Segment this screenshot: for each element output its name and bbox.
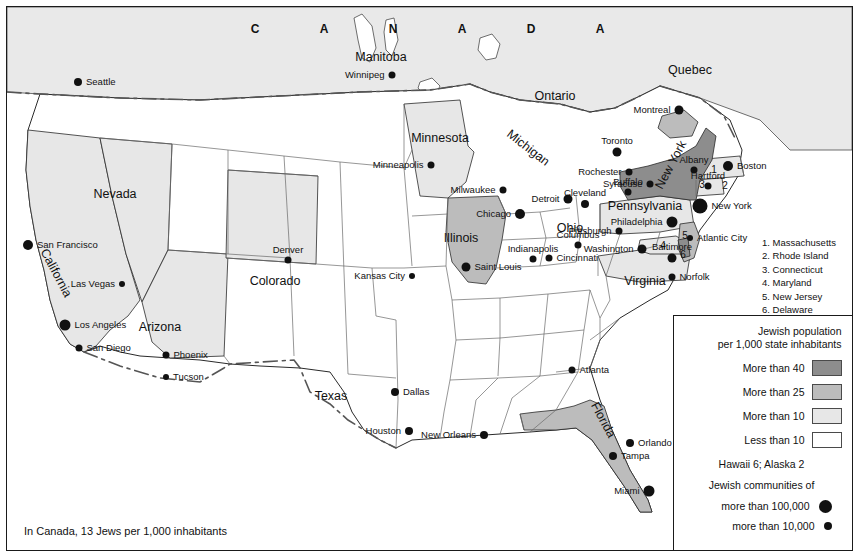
city-dot bbox=[616, 228, 623, 235]
legend-class-label: Less than 10 bbox=[744, 434, 804, 446]
city-dot bbox=[515, 209, 525, 219]
city-dot bbox=[644, 486, 655, 497]
city-dot bbox=[391, 388, 399, 396]
city-dot bbox=[613, 148, 622, 157]
jewish-population-map: CANADA MinnesotaMichiganIllinoisOhioNeva… bbox=[0, 0, 859, 557]
city-dot bbox=[569, 367, 576, 374]
legend-community-label: more than 10,000 bbox=[732, 520, 814, 532]
legend-community-row: more than 100,000 bbox=[682, 500, 842, 513]
map-legend: Jewish population per 1,000 state inhabi… bbox=[673, 315, 853, 551]
legend-title: Jewish population per 1,000 state inhabi… bbox=[682, 325, 842, 351]
city-dot bbox=[546, 255, 553, 262]
state-colorado bbox=[226, 170, 318, 264]
city-dot bbox=[428, 162, 435, 169]
state-florida bbox=[520, 400, 652, 512]
legend-class-label: More than 10 bbox=[743, 410, 805, 422]
city-dot bbox=[119, 281, 125, 287]
legend-community-row: more than 10,000 bbox=[682, 520, 842, 532]
city-dot bbox=[60, 320, 71, 331]
city-dot bbox=[609, 452, 617, 460]
legend-class-label: More than 25 bbox=[743, 386, 805, 398]
city-dot bbox=[285, 257, 292, 264]
legend-color-swatch bbox=[812, 360, 842, 376]
city-dot bbox=[462, 263, 471, 272]
state-list-item: 5. New Jersey bbox=[762, 290, 836, 303]
city-dot bbox=[705, 183, 712, 190]
legend-class-label: More than 40 bbox=[743, 362, 805, 374]
legend-communities-title: Jewish communities of bbox=[682, 479, 842, 491]
city-dot bbox=[667, 217, 678, 228]
city-dot bbox=[389, 72, 396, 79]
city-dot bbox=[691, 167, 698, 174]
state-list-item: 4. Maryland bbox=[762, 276, 836, 289]
legend-class-row: More than 40 bbox=[682, 360, 842, 376]
city-dot bbox=[626, 439, 634, 447]
city-dot bbox=[163, 352, 170, 359]
city-dot bbox=[647, 181, 654, 188]
city-dot bbox=[76, 345, 83, 352]
numbered-state-list: 1. Massachusetts2. Rhode Island3. Connec… bbox=[762, 236, 836, 317]
city-dot bbox=[163, 374, 169, 380]
state-list-item: 1. Massachusetts bbox=[762, 236, 836, 249]
legend-title-line1: Jewish population bbox=[758, 325, 841, 337]
city-dot bbox=[74, 78, 82, 86]
canada-letter: A bbox=[596, 22, 605, 36]
city-dot bbox=[23, 240, 33, 250]
city-dot bbox=[581, 200, 589, 208]
city-dot bbox=[668, 254, 677, 263]
legend-community-dot bbox=[819, 500, 832, 513]
state-virginia bbox=[598, 250, 690, 282]
city-dot bbox=[638, 245, 647, 254]
city-dot bbox=[626, 169, 633, 176]
legend-note: Hawaii 6; Alaska 2 bbox=[682, 458, 842, 470]
legend-title-line2: per 1,000 state inhabitants bbox=[718, 338, 842, 350]
legend-class-row: Less than 10 bbox=[682, 432, 842, 448]
canada-letter: C bbox=[251, 22, 260, 36]
state-list-item: 2. Rhode Island bbox=[762, 249, 836, 262]
city-dot bbox=[409, 273, 415, 279]
canada-letter: N bbox=[389, 22, 398, 36]
city-dot bbox=[687, 235, 693, 241]
city-dot bbox=[564, 195, 573, 204]
legend-class-rows: More than 40More than 25More than 10Less… bbox=[682, 360, 842, 448]
city-dot bbox=[405, 427, 413, 435]
city-dot bbox=[500, 187, 507, 194]
legend-color-swatch bbox=[812, 432, 842, 448]
map-caption: In Canada, 13 Jews per 1,000 inhabitants bbox=[24, 525, 227, 537]
legend-community-rows: more than 100,000more than 10,000 bbox=[682, 500, 842, 532]
legend-color-swatch bbox=[812, 384, 842, 400]
canada-letter: A bbox=[458, 22, 467, 36]
city-dot bbox=[669, 274, 676, 281]
legend-class-row: More than 25 bbox=[682, 384, 842, 400]
city-dot bbox=[693, 199, 708, 214]
legend-community-dot bbox=[824, 522, 832, 530]
city-dot bbox=[530, 256, 537, 263]
legend-class-row: More than 10 bbox=[682, 408, 842, 424]
city-dot bbox=[675, 106, 684, 115]
canada-letter: A bbox=[320, 22, 329, 36]
state-list-item: 3. Connecticut bbox=[762, 263, 836, 276]
legend-color-swatch bbox=[812, 408, 842, 424]
city-dot bbox=[575, 242, 582, 249]
canada-letter: D bbox=[527, 22, 536, 36]
legend-community-label: more than 100,000 bbox=[721, 500, 809, 512]
city-dot bbox=[723, 161, 733, 171]
city-dot bbox=[625, 189, 632, 196]
city-dot bbox=[480, 431, 488, 439]
